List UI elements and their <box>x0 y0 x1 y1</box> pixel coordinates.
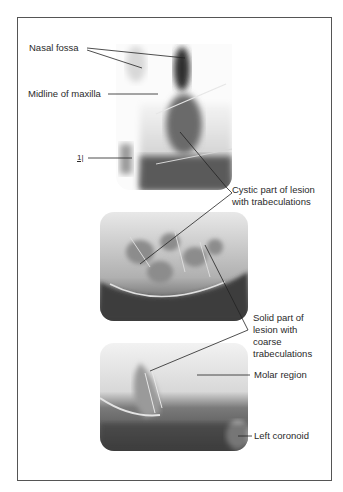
label-solid-line3: coarse <box>253 336 312 348</box>
label-solid-part: Solid part of lesion with coarse trabecu… <box>253 312 312 360</box>
label-solid-line4: trabeculations <box>253 348 312 360</box>
label-left-coronoid: Left coronoid <box>254 430 309 442</box>
label-cystic-part: Cystic part of lesion with trabeculation… <box>232 184 315 208</box>
label-molar-region: Molar region <box>254 369 307 381</box>
label-tooth-marker: 1| <box>77 152 84 164</box>
label-solid-line2: lesion with <box>253 324 312 336</box>
label-midline-maxilla: Midline of maxilla <box>28 88 101 100</box>
leader-lines <box>0 0 343 492</box>
label-cystic-line2: with trabeculations <box>232 196 315 208</box>
label-cystic-line1: Cystic part of lesion <box>232 184 315 196</box>
label-solid-line1: Solid part of <box>253 312 312 324</box>
label-nasal-fossa: Nasal fossa <box>29 42 79 54</box>
